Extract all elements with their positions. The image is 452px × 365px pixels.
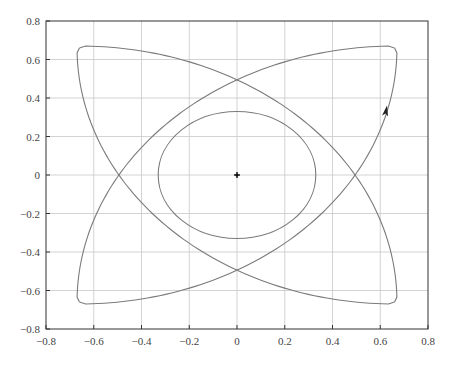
x-tick-label: −0.4 [132, 335, 152, 347]
y-tick-label: 0.6 [26, 54, 40, 66]
y-tick-label: 0.8 [26, 15, 40, 27]
annotations [234, 105, 388, 178]
x-tick-label: −0.8 [36, 335, 56, 347]
y-tick-label: −0.6 [20, 285, 40, 297]
y-tick-label: −0.2 [20, 208, 40, 220]
center-marker-icon [234, 172, 240, 178]
chart: −0.8−0.6−0.4−0.200.20.40.60.8 −0.8−0.6−0… [0, 0, 452, 365]
x-tick-label: 0.2 [278, 335, 292, 347]
x-tick-label: −0.6 [84, 335, 104, 347]
y-tick-label: 0.2 [26, 131, 40, 143]
y-tick-label: 0.4 [26, 92, 40, 104]
y-tick-label: 0 [35, 169, 41, 181]
direction-arrow-icon [382, 105, 388, 116]
x-tick-label: 0 [234, 335, 240, 347]
x-tick-label: 0.6 [373, 335, 387, 347]
x-axis-ticks: −0.8−0.6−0.4−0.200.20.40.60.8 [36, 325, 435, 347]
x-tick-label: 0.8 [421, 335, 435, 347]
x-tick-label: 0.4 [326, 335, 340, 347]
y-tick-label: −0.4 [20, 246, 40, 258]
y-tick-label: −0.8 [20, 323, 40, 335]
x-tick-label: −0.2 [179, 335, 199, 347]
